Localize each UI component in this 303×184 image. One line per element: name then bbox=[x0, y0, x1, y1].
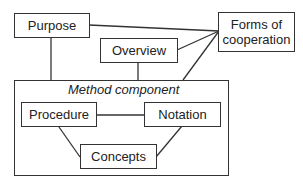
concepts-node: Concepts bbox=[80, 144, 157, 169]
procedure-node: Procedure bbox=[21, 102, 97, 127]
notation-node: Notation bbox=[144, 102, 221, 127]
forms-of-cooperation-node: Forms of cooperation bbox=[218, 12, 295, 52]
method-component-label: Method component bbox=[68, 82, 179, 97]
overview-node: Overview bbox=[100, 38, 178, 63]
purpose-node: Purpose bbox=[14, 13, 90, 38]
